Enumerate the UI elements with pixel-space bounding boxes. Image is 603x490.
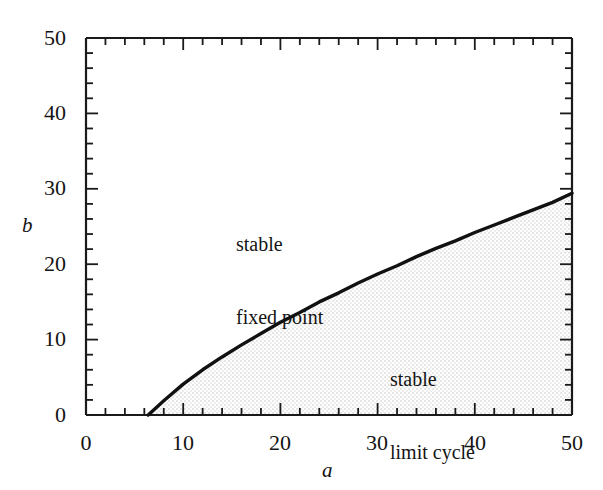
- ytick-label-50: 50: [24, 27, 66, 49]
- annotation-stable-fixed-point: stable fixed point: [236, 183, 323, 378]
- y-axis-title: b: [22, 215, 33, 236]
- ytick-label-40: 40: [24, 102, 66, 124]
- ytick-label-0: 0: [24, 404, 66, 426]
- annotation-line-2: fixed point: [236, 305, 323, 329]
- ytick-label-20: 20: [24, 253, 66, 275]
- xtick-label-20: 20: [260, 432, 300, 454]
- phase-diagram-figure: 50 40 30 20 10 0 0 10 20 30 40 50 b a st…: [0, 0, 603, 490]
- annotation-line-1: stable: [390, 367, 475, 391]
- xtick-label-10: 10: [163, 432, 203, 454]
- xtick-label-0: 0: [66, 432, 106, 454]
- annotation-stable-limit-cycle: stable limit cycle: [390, 318, 475, 490]
- annotation-line-2: limit cycle: [390, 440, 475, 464]
- shaded-region-limit-cycle: [148, 193, 572, 415]
- annotation-line-1: stable: [236, 232, 323, 256]
- ytick-label-10: 10: [24, 328, 66, 350]
- x-axis-title: a: [322, 460, 333, 481]
- ytick-label-30: 30: [24, 177, 66, 199]
- xtick-label-50: 50: [552, 432, 592, 454]
